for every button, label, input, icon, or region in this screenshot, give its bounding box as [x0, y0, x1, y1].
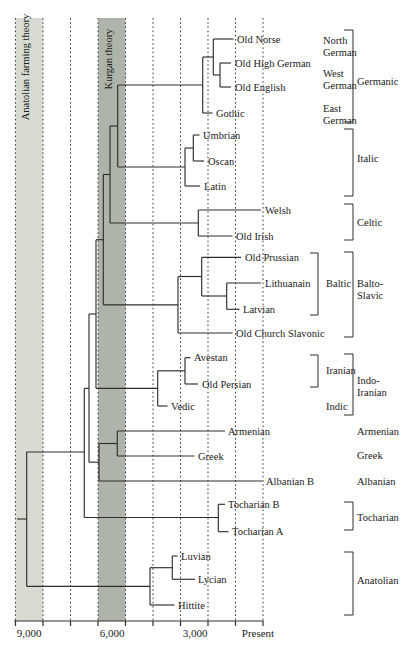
leaf-label-old-persian: Old Persian — [202, 379, 252, 390]
subgroup-label-east-german: East — [323, 103, 341, 114]
family-label-germanic: Germanic — [357, 76, 399, 87]
leaf-label-old-church-slavonic: Old Church Slavonic — [236, 328, 325, 339]
bracket-tocharian — [344, 502, 353, 530]
family-label-armenian: Armenian — [357, 426, 400, 437]
leaf-label-old-english: Old English — [235, 82, 286, 93]
leaf-label-old-irish: Old Irish — [236, 231, 274, 242]
subgroup-label-iranian: Iranian — [326, 365, 356, 376]
leaf-label-greek: Greek — [198, 451, 224, 462]
band-kurgan-theory — [98, 18, 126, 621]
axis-label-present: Present — [242, 627, 274, 639]
bracket-anatolian — [344, 552, 353, 615]
leaf-label-umbrian: Umbrian — [203, 130, 241, 141]
leaf-label-oscan: Oscan — [208, 156, 235, 167]
subgroup-label-indic: Indic — [326, 401, 348, 412]
subgroup-label-north-german: German — [323, 47, 358, 58]
family-label-balto-slavic: Balto- — [357, 278, 384, 289]
axis-label-6-000: 6,000 — [100, 627, 125, 639]
family-label-italic: Italic — [357, 153, 379, 164]
family-label-celtic: Celtic — [357, 217, 382, 228]
subgroup-label-west-german: West — [323, 68, 344, 79]
leaf-label-lithuanain: Lithuanain — [265, 278, 311, 289]
leaf-label-albanian-b: Albanian B — [266, 476, 314, 487]
bracket-baltic — [310, 253, 318, 315]
axis-label-3-000: 3,000 — [183, 627, 208, 639]
family-label-balto-slavic: Slavic — [357, 290, 384, 301]
leaf-label-avestan: Avestan — [194, 352, 228, 363]
family-label-greek: Greek — [357, 450, 383, 461]
leaf-label-welsh: Welsh — [265, 205, 292, 216]
leaf-label-tocharian-b: Tocharian B — [228, 499, 279, 510]
bracket-balto-slavic — [344, 252, 353, 337]
subgroup-label-east-german: German — [323, 115, 358, 126]
subgroup-label-baltic: Baltic — [326, 278, 351, 289]
family-label-indo-iranian: Indo- — [357, 375, 380, 386]
leaf-label-lycian: Lycian — [198, 574, 227, 585]
family-label-indo-iranian: Iranian — [357, 387, 387, 398]
bracket-italic — [344, 129, 353, 196]
bracket-celtic — [344, 204, 353, 240]
leaf-label-hittite: Hittite — [178, 600, 205, 611]
leaf-label-old-norse: Old Norse — [237, 34, 281, 45]
subgroup-label-west-german: German — [323, 80, 358, 91]
leaf-label-vedic: Vedic — [171, 401, 195, 412]
leaf-label-old-high-german: Old High German — [235, 58, 312, 69]
band-label-anatolian-farming-theory: Anatolian farming theory — [20, 13, 31, 120]
axis-label-9-000: 9,000 — [17, 627, 42, 639]
family-label-albanian: Albanian — [357, 476, 396, 487]
phylogenetic-tree-figure: Anatolian farming theoryKurgan theoryOld… — [0, 0, 412, 650]
bracket-iranian — [310, 355, 318, 387]
leaf-label-armenian: Armenian — [228, 426, 271, 437]
family-label-anatolian: Anatolian — [357, 575, 399, 586]
subgroup-label-north-german: North — [323, 35, 348, 46]
leaf-label-gothic: Gothic — [216, 108, 245, 119]
band-label-kurgan-theory: Kurgan theory — [103, 28, 114, 89]
leaf-label-luvian: Luvian — [181, 551, 211, 562]
leaf-label-tocharian-a: Tocharian A — [232, 526, 284, 537]
leaf-label-latin: Latin — [204, 181, 227, 192]
family-label-tocharian: Tocharian — [357, 512, 400, 523]
leaf-label-latvian: Latvian — [243, 304, 276, 315]
leaf-label-old-prussian: Old Prussian — [245, 252, 300, 263]
tree-diagram-svg: Anatolian farming theoryKurgan theoryOld… — [0, 0, 412, 650]
